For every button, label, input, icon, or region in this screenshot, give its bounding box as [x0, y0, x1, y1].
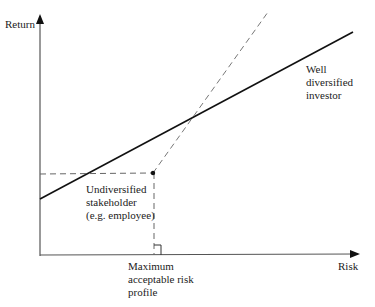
label-line: stakeholder: [86, 196, 155, 209]
max-risk-label: Maximum acceptable risk profile: [128, 260, 194, 299]
x-axis-label: Risk: [338, 260, 358, 273]
x-axis: [40, 254, 358, 255]
label-line: Undiversified: [86, 183, 155, 196]
label-line: (e.g. employee): [86, 209, 155, 222]
label-line: profile: [128, 286, 194, 299]
label-line: diversified: [306, 76, 353, 89]
label-line: Maximum: [128, 260, 194, 273]
y-axis-label: Return: [5, 18, 35, 31]
well-diversified-line: [40, 32, 353, 199]
undiversified-line: [153, 12, 268, 173]
undiversified-label: Undiversified stakeholder (e.g. employee…: [86, 183, 155, 222]
label-line: Well: [306, 63, 353, 76]
label-line: investor: [306, 89, 353, 102]
right-angle-marker: [154, 245, 161, 255]
stakeholder-point: [151, 171, 155, 175]
return-guide-dash: [40, 173, 153, 174]
label-line: acceptable risk: [128, 273, 194, 286]
well-diversified-label: Well diversified investor: [306, 63, 353, 102]
